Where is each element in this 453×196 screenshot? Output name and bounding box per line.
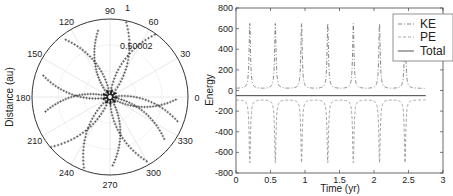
svg-text:1: 1 (302, 175, 307, 185)
radial-label-inner: 0.50002 (120, 41, 153, 51)
svg-text:210: 210 (27, 136, 42, 146)
svg-text:-800: -800 (215, 168, 233, 178)
legend-ke-label: KE (420, 17, 436, 31)
svg-text:120: 120 (59, 17, 74, 27)
svg-text:400: 400 (218, 44, 233, 54)
svg-text:60: 60 (148, 17, 158, 27)
svg-text:3: 3 (440, 175, 445, 185)
polar-plot: 0306090120150180210240270300330 0.50002 … (4, 3, 200, 190)
svg-text:330: 330 (178, 136, 193, 146)
svg-text:240: 240 (59, 168, 74, 178)
svg-text:0: 0 (194, 93, 199, 103)
svg-text:270: 270 (102, 180, 117, 190)
svg-text:-400: -400 (215, 127, 233, 137)
svg-text:90: 90 (105, 6, 115, 16)
energy-plot: 00.511.522.538006004002000-200-400-600-8… (204, 3, 453, 194)
energy-xlabel: Time (yr) (320, 183, 360, 194)
svg-text:2: 2 (371, 175, 376, 185)
svg-text:-200: -200 (215, 106, 233, 116)
svg-text:30: 30 (180, 49, 190, 59)
svg-text:600: 600 (218, 24, 233, 34)
svg-text:0: 0 (228, 86, 233, 96)
polar-ylabel: Distance (au) (4, 67, 15, 126)
legend-pe-label: PE (420, 30, 436, 44)
radial-label-outer: 1 (125, 3, 130, 13)
legend: KE PE Total (393, 14, 453, 61)
svg-text:0.5: 0.5 (264, 175, 277, 185)
svg-text:200: 200 (218, 65, 233, 75)
legend-total-label: Total (420, 44, 445, 58)
svg-text:800: 800 (218, 3, 233, 13)
svg-text:180: 180 (15, 93, 30, 103)
svg-text:0: 0 (233, 175, 238, 185)
svg-text:2.5: 2.5 (402, 175, 415, 185)
figure: 0306090120150180210240270300330 0.50002 … (0, 0, 453, 196)
energy-ylabel: Energy (204, 74, 215, 106)
svg-text:-600: -600 (215, 147, 233, 157)
svg-text:300: 300 (146, 168, 161, 178)
svg-text:150: 150 (27, 49, 42, 59)
